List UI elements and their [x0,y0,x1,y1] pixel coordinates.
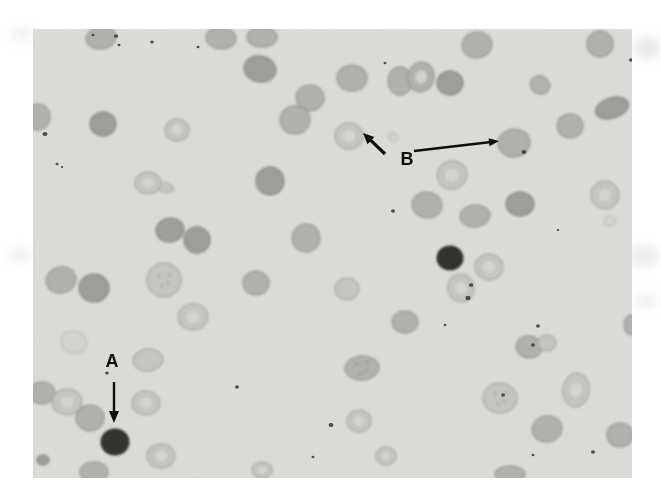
label-b: B [401,149,414,169]
film-grain-overlay [33,29,632,478]
scan-smudge [12,27,32,41]
scan-smudge [635,294,659,308]
scan-smudge [627,246,661,266]
micrograph-figure: A B [33,29,632,478]
scan-smudge [8,248,32,261]
page-background: A B [0,0,661,500]
label-a: A [106,351,119,371]
blood-smear-micrograph: A B [33,29,632,478]
scan-smudge [634,36,660,60]
